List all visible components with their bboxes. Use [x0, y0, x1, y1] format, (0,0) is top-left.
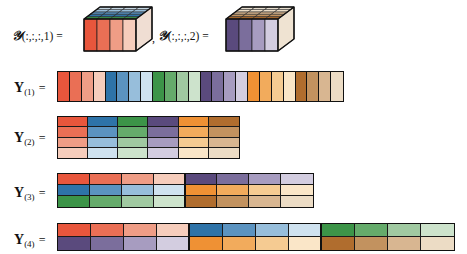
unfolding-2-label: Y(2) = — [14, 129, 45, 147]
matrix-cell — [88, 127, 118, 137]
matrix-cell — [58, 224, 91, 237]
matrix-cell — [106, 72, 118, 101]
cube-front-column — [239, 19, 252, 51]
matrix-cell — [223, 224, 256, 237]
tensor-slice-1-label: 𝒴(:,:,:,1) = — [12, 27, 63, 43]
matrix-cell — [118, 117, 148, 127]
matrix-cell — [179, 138, 209, 148]
script-y-symbol-2: 𝒴 — [158, 28, 168, 43]
matrix-cell — [284, 72, 296, 101]
matrix-cell — [118, 127, 148, 137]
matrix-cell — [217, 174, 249, 185]
cube-front-column — [84, 19, 97, 51]
matrix-cell — [307, 72, 319, 101]
matrix-cell — [249, 185, 281, 196]
matrix-symbol-4: Y — [14, 232, 24, 247]
matrix-cell — [249, 174, 281, 185]
matrix-cell — [421, 237, 454, 250]
unfolding-3-label: Y(3) = — [14, 184, 45, 202]
matrix-subscript-2: (2) — [24, 137, 35, 147]
cube-front-column — [97, 19, 110, 51]
matrix-cell — [281, 185, 313, 196]
matrix-cell — [322, 224, 355, 237]
matrix-cell — [148, 138, 178, 148]
matrix-cell — [118, 138, 148, 148]
matrix-cell — [201, 72, 213, 101]
comma-glyph: , — [152, 31, 155, 45]
matrix-cell — [122, 196, 154, 207]
tensor-slice-2-cube — [224, 5, 296, 53]
matrix-cell — [421, 224, 454, 237]
matrix-subscript-3: (3) — [24, 192, 35, 202]
matrix-cell — [58, 138, 88, 148]
matrix-cell — [177, 72, 189, 101]
matrix-cell — [148, 117, 178, 127]
matrix-cell — [91, 237, 124, 250]
cube-front-column — [226, 19, 239, 51]
equals-sign-4: = — [39, 233, 46, 247]
matrix-cell — [355, 224, 388, 237]
matrix-cell — [289, 224, 322, 237]
matrix-cell — [217, 185, 249, 196]
matrix-cell — [58, 127, 88, 137]
slice-index-text-2: (:,:,:,2) = — [168, 30, 209, 42]
matrix-cell — [91, 224, 124, 237]
matrix-cell — [154, 174, 186, 185]
matrix-cell — [148, 148, 178, 158]
cube-2-svg — [224, 5, 296, 53]
tensor-slice-2-label: 𝒴(:,:,:,2) = — [158, 27, 209, 43]
equals-sign-1: = — [39, 81, 46, 95]
matrix-cell — [179, 117, 209, 127]
matrix-cell — [90, 174, 122, 185]
matrix-symbol-3: Y — [14, 185, 24, 200]
matrix-cell — [58, 185, 90, 196]
unfolding-4-label: Y(4) = — [14, 231, 45, 249]
matrix-symbol-1: Y — [14, 80, 24, 95]
matrix-cell — [58, 72, 70, 101]
matrix-cell — [256, 224, 289, 237]
matrix-cell — [322, 237, 355, 250]
matrix-cell — [209, 117, 239, 127]
matrix-cell — [209, 127, 239, 137]
matrix-cell — [82, 72, 94, 101]
matrix-symbol-2: Y — [14, 130, 24, 145]
matrix-cell — [118, 148, 148, 158]
cube-front-column — [265, 19, 278, 51]
matrix-cell — [223, 237, 256, 250]
matrix-cell — [331, 72, 343, 101]
matrix-cell — [289, 237, 322, 250]
matrix-cell — [58, 148, 88, 158]
matrix-cell — [157, 237, 190, 250]
cube-front-column — [110, 19, 123, 51]
matrix-cell — [190, 224, 223, 237]
figure-canvas: 𝒴(:,:,:,1) = , 𝒴(:,:,:,2) = Y(1) = Y(2) … — [0, 0, 467, 254]
matrix-cell — [124, 224, 157, 237]
equals-sign-2: = — [39, 131, 46, 145]
cube-front-column — [252, 19, 265, 51]
matrix-cell — [189, 72, 201, 101]
script-y-symbol: 𝒴 — [12, 28, 22, 43]
matrix-cell — [122, 174, 154, 185]
unfolding-1-matrix — [57, 71, 344, 102]
matrix-cell — [88, 138, 118, 148]
matrix-cell — [157, 224, 190, 237]
matrix-subscript-4: (4) — [24, 239, 35, 249]
matrix-cell — [296, 72, 308, 101]
matrix-cell — [249, 196, 281, 207]
matrix-cell — [148, 127, 178, 137]
matrix-cell — [256, 237, 289, 250]
unfolding-1-label: Y(1) = — [14, 79, 45, 97]
matrix-cell — [179, 127, 209, 137]
matrix-cell — [124, 237, 157, 250]
matrix-subscript-1: (1) — [24, 87, 35, 97]
matrix-cell — [58, 174, 90, 185]
unfolding-3-matrix — [57, 173, 314, 208]
unfolding-4-matrix — [57, 223, 455, 251]
tensor-slice-1-cube — [82, 5, 154, 53]
cube-1-front-face — [84, 19, 136, 51]
matrix-cell — [179, 148, 209, 158]
matrix-cell — [90, 196, 122, 207]
matrix-cell — [272, 72, 284, 101]
matrix-cell — [224, 72, 236, 101]
matrix-cell — [190, 237, 223, 250]
